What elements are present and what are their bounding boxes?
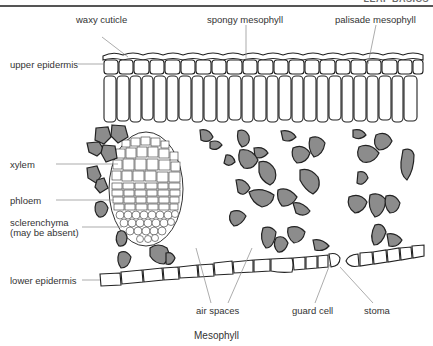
lower-epidermis	[100, 245, 424, 286]
label-upper-epidermis: upper epidermis	[10, 59, 78, 70]
leaf-cross-section-diagram: .o { fill: #fff; stroke: #222; stroke-wi…	[0, 0, 433, 346]
upper-epidermis	[104, 60, 423, 74]
label-spongy-mesophyll: spongy mesophyll	[207, 14, 283, 25]
label-phloem: phloem	[10, 195, 41, 206]
label-lower-epidermis: lower epidermis	[10, 275, 77, 286]
label-air-spaces: air spaces	[196, 305, 239, 316]
label-stoma: stoma	[364, 305, 390, 316]
label-palisade-mesophyll: palisade mesophyll	[335, 14, 416, 25]
label-sclerenchyma-note: (may be absent)	[10, 227, 79, 238]
label-guard-cell: guard cell	[292, 305, 333, 316]
waxy-cuticle	[103, 53, 423, 60]
palisade-mesophyll	[104, 76, 417, 122]
vascular-bundle	[109, 132, 183, 246]
label-waxy-cuticle: waxy cuticle	[76, 14, 127, 25]
figure-caption: Mesophyll	[0, 330, 433, 341]
label-xylem: xylem	[10, 159, 35, 170]
